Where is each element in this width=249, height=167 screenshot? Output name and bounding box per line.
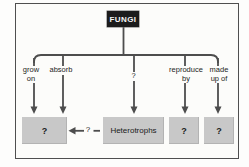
diagram-stage: FUNGI grow on absorb ? reproduce by made… xyxy=(0,0,249,167)
root-node-fungi: FUNGI xyxy=(107,11,139,27)
heterotrophs-box: Heterotrophs xyxy=(103,117,164,144)
arrowhead-down-icon xyxy=(60,107,67,115)
cross-link-label: ? xyxy=(85,125,91,134)
branch-label-line: up of xyxy=(210,75,229,84)
arrowhead-left-icon xyxy=(69,127,76,135)
branch-label-line: absorb xyxy=(50,66,73,75)
answer-box-2: ? xyxy=(169,117,199,144)
answer-box-3: ? xyxy=(204,117,234,144)
branch-label-line: by xyxy=(169,75,203,84)
arrowhead-down-icon xyxy=(215,107,222,115)
branch-label-reproduce-by: reproduce by xyxy=(168,66,204,83)
branch-label-line: ? xyxy=(131,72,135,81)
branch-label-made-up-of: made up of xyxy=(209,66,230,83)
branch-label-absorb: absorb xyxy=(49,66,74,75)
arrowhead-down-icon xyxy=(131,107,138,115)
branch-label-grow-on: grow on xyxy=(22,66,40,83)
arrowhead-down-icon xyxy=(31,107,38,115)
branch-label-line: on xyxy=(23,75,39,84)
answer-box-1: ? xyxy=(22,117,67,144)
arrowhead-down-icon xyxy=(182,107,189,115)
branch-label-question: ? xyxy=(130,72,136,81)
trunk-path xyxy=(34,55,218,63)
